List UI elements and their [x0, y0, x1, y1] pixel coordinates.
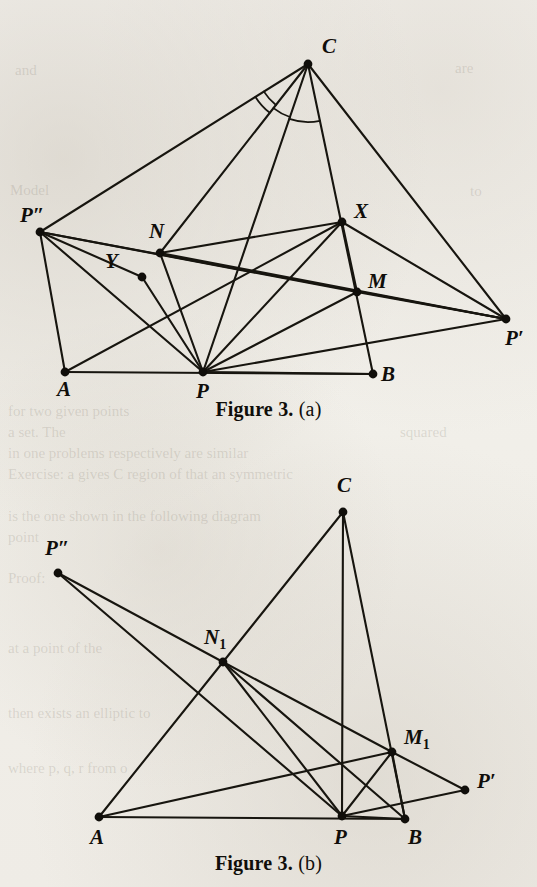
point-label-a: A	[88, 825, 104, 849]
vertex-p	[338, 812, 347, 821]
vertex-y	[138, 273, 147, 282]
vertex-pp	[502, 315, 511, 324]
figure-3a: ABCPP′P″NMXY	[0, 0, 537, 440]
edge-group	[58, 512, 465, 819]
angle-arc-C-2	[273, 108, 289, 117]
segment-A-Ppp	[40, 232, 65, 372]
angle-arc-C-3	[289, 119, 320, 122]
vertex-n1	[219, 658, 228, 667]
point-label-b: B	[380, 362, 395, 386]
vertex-n	[156, 249, 165, 258]
point-label-c: C	[322, 34, 337, 58]
point-label-ppp: P″	[19, 203, 44, 227]
figure-3a-caption: Figure 3. (a)	[0, 398, 537, 421]
vertex-a	[95, 813, 104, 822]
vertex-m1	[388, 748, 397, 757]
figure-3a-caption-bold: Figure 3.	[215, 398, 293, 420]
vertex-ppp	[54, 569, 63, 578]
figure-3b: ABCPP′P″N1M1	[0, 440, 537, 887]
point-label-pp: P′	[476, 769, 496, 793]
vertex-a	[61, 368, 70, 377]
figure-3a-drawing: ABCPP′P″NMXY	[0, 0, 537, 440]
segment-C-N	[160, 64, 308, 253]
segment-C-Ppp	[40, 64, 308, 232]
figure-3b-drawing: ABCPP′P″N1M1	[0, 440, 537, 887]
segment-N1-M1	[223, 662, 392, 752]
figure-3a-caption-plain: (a)	[299, 398, 322, 420]
point-label-n: N	[148, 219, 165, 243]
segment-Ppp-Y	[40, 232, 142, 277]
vertex-c	[304, 60, 313, 69]
segment-X-M	[342, 222, 357, 292]
edge-group	[40, 64, 506, 374]
vertex-b	[401, 815, 410, 824]
segment-P-X	[203, 222, 342, 372]
segment-N1-P	[223, 662, 342, 816]
segment-P-Pp	[203, 319, 506, 372]
angle-arc-C-0	[264, 92, 276, 105]
segment-Ppp-N1	[58, 573, 223, 662]
point-label-m1: M1	[403, 725, 430, 752]
vertex-m	[353, 288, 362, 297]
point-label-n1: N1	[203, 625, 226, 652]
point-label-group: ABCPP′P″NMXY	[19, 34, 524, 403]
segment-C-Pp	[308, 64, 506, 319]
segment-M1-Pp	[392, 752, 465, 790]
figure-3b-caption: Figure 3. (b)	[0, 852, 537, 875]
point-label-pp: P′	[504, 326, 524, 350]
point-label-group: ABCPP′P″N1M1	[44, 473, 496, 849]
point-label-x: X	[353, 199, 369, 223]
point-label-c: C	[337, 473, 352, 497]
vertex-b	[369, 370, 378, 379]
segment-Ppp-P	[58, 573, 342, 816]
angle-arc-C-1	[255, 97, 269, 113]
vertex-pp	[461, 786, 470, 795]
vertex-c	[339, 508, 348, 517]
point-label-m: M	[367, 269, 388, 293]
vertex-ppp	[36, 228, 45, 237]
point-label-b: B	[407, 825, 422, 849]
vertex-group	[54, 508, 470, 824]
vertex-x	[338, 218, 347, 227]
point-label-p: P	[333, 825, 347, 849]
point-label-y: Y	[105, 249, 120, 273]
figure-3b-caption-plain: (b)	[298, 852, 322, 874]
vertex-p	[199, 368, 208, 377]
segment-C-P	[342, 512, 343, 816]
segment-C-N1	[223, 512, 343, 662]
figure-3b-caption-bold: Figure 3.	[215, 852, 293, 874]
point-label-ppp: P″	[44, 536, 69, 560]
